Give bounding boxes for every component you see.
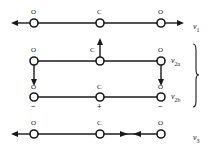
nu3-atom-oxygen-right — [157, 130, 165, 138]
mode-label-nu2a: ν2a — [171, 57, 180, 67]
mode-nu1-group — [11, 19, 184, 27]
nu3-center-right-arrowhead — [120, 131, 128, 137]
co2-vibrational-modes-figure: O C O ν1 O C O ν2a O C O − + − ν2b O C O… — [0, 0, 219, 151]
degenerate-pair-brace — [193, 44, 199, 107]
mode-label-nu1: ν1 — [193, 23, 200, 33]
nu1-label-carbon: C — [97, 9, 102, 16]
mode-label-nu2b-sub: 2b — [175, 97, 181, 103]
nu2b-atom-oxygen-left — [30, 93, 38, 101]
nu3-label-oxygen-left: O — [31, 120, 36, 127]
nu2b-label-oxygen-left: O — [31, 84, 36, 91]
nu2a-atom-carbon — [96, 57, 104, 65]
nu2a-label-carbon: C — [90, 47, 95, 54]
nu2b-label-oxygen-right: O — [158, 84, 163, 91]
nu2a-atom-oxygen-right — [157, 57, 165, 65]
nu1-label-oxygen-left: O — [31, 9, 36, 16]
nu2b-sign-center: + — [97, 103, 102, 111]
mode-label-nu2a-sub: 2a — [175, 61, 181, 67]
nu3-left-arrowhead — [11, 131, 18, 137]
nu3-right-left-arrowhead — [133, 131, 141, 137]
nu1-atom-oxygen-left — [30, 19, 38, 27]
nu1-label-oxygen-right: O — [158, 9, 163, 16]
nu3-label-oxygen-right: O — [158, 120, 163, 127]
nu3-atom-carbon — [96, 130, 104, 138]
mode-label-nu3-sub: 3 — [197, 138, 200, 144]
mode-label-nu1-sub: 1 — [197, 27, 200, 33]
nu2a-atom-oxygen-left — [30, 57, 38, 65]
nu2b-sign-left: − — [31, 103, 36, 111]
nu2b-label-carbon: C — [97, 84, 102, 91]
nu2b-atom-carbon — [96, 93, 104, 101]
nu2a-label-oxygen-left: O — [31, 47, 36, 54]
nu3-label-carbon: C — [97, 120, 102, 127]
nu1-right-arrowhead — [177, 20, 184, 26]
modes-svg — [0, 0, 219, 151]
nu1-left-arrowhead — [11, 20, 18, 26]
nu3-atom-oxygen-left — [30, 130, 38, 138]
nu2b-sign-right: − — [158, 103, 163, 111]
mode-label-nu3: ν3 — [193, 134, 200, 144]
nu2b-atom-oxygen-right — [157, 93, 165, 101]
brace-path — [193, 44, 199, 107]
nu1-atom-oxygen-right — [157, 19, 165, 27]
nu2a-label-oxygen-right: O — [158, 47, 163, 54]
nu2a-center-up-arrowhead — [97, 38, 103, 45]
nu1-atom-carbon — [96, 19, 104, 27]
mode-label-nu2b: ν2b — [171, 93, 181, 103]
mode-nu3-group — [11, 130, 165, 138]
mode-nu2b-group — [30, 93, 165, 101]
mode-nu2a-group — [30, 38, 165, 86]
